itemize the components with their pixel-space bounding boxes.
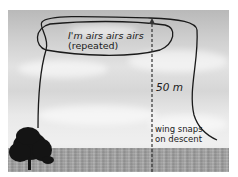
descent-label-sub: on descent [155, 134, 202, 144]
arrowhead-icon [149, 18, 155, 24]
height-label: 50 m [156, 82, 183, 92]
annotation-overlay [0, 0, 238, 177]
loop-label-sub: (repeated) [68, 41, 118, 51]
tree-icon [9, 127, 54, 170]
descent-label: wing snaps [155, 124, 203, 134]
